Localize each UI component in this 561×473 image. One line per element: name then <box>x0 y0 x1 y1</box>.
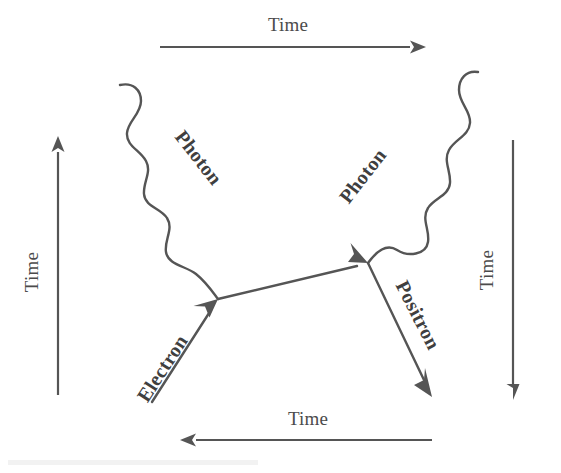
positron-line: Positron <box>368 263 445 397</box>
photon-right-line: Photon <box>334 72 478 263</box>
arrowhead-internal-icon <box>348 243 368 263</box>
internal-shaft <box>218 266 357 299</box>
electron-label: Electron <box>132 331 191 406</box>
photon-right-wave <box>368 72 478 263</box>
arrowhead-electron-icon <box>194 299 219 318</box>
arrowhead-down-icon <box>507 384 520 400</box>
time-axis-top: Time <box>160 14 426 54</box>
diagram-canvas: Time Time Time Time Photon Photon <box>0 0 561 473</box>
scan-artifact <box>8 460 258 465</box>
time-axis-left: Time <box>21 136 65 395</box>
time-label-right: Time <box>476 250 497 290</box>
photon-left-wave <box>120 84 218 299</box>
time-label-bottom: Time <box>288 408 328 429</box>
time-axis-right: Time <box>476 140 520 400</box>
feynman-diagram-svg: Time Time Time Time Photon Photon <box>0 0 561 473</box>
arrowhead-left-icon <box>180 434 196 447</box>
time-axis-bottom: Time <box>180 408 432 447</box>
photon-right-label: Photon <box>334 144 390 207</box>
time-label-left: Time <box>21 252 42 292</box>
internal-line <box>218 243 368 299</box>
photon-left-label: Photon <box>171 126 227 189</box>
positron-label: Positron <box>392 277 445 353</box>
scan-smudge <box>8 460 258 465</box>
arrowhead-right-icon <box>410 41 426 54</box>
electron-line: Electron <box>132 299 218 406</box>
arrowhead-positron-icon <box>414 368 432 397</box>
photon-left-line: Photon <box>120 84 227 299</box>
arrowhead-up-icon <box>52 136 65 152</box>
time-label-top: Time <box>268 14 308 35</box>
